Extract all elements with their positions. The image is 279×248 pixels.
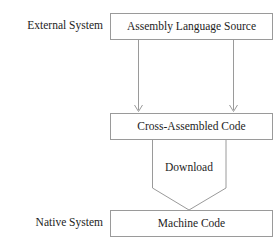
cross-assembled-code-label: Cross-Assembled Code xyxy=(137,120,245,132)
assembly-language-source-label: Assembly Language Source xyxy=(127,20,256,33)
side-label-external-system: External System xyxy=(27,19,103,32)
edge-source-to-crossassembled-right xyxy=(230,40,238,112)
edge-download-funnel: Download xyxy=(153,140,227,210)
node-cross-assembled-code: Cross-Assembled Code xyxy=(111,114,273,140)
node-assembly-language-source: Assembly Language Source xyxy=(111,14,273,40)
diagram-canvas: External System Assembly Language Source… xyxy=(0,0,279,248)
machine-code-label: Machine Code xyxy=(158,217,225,229)
download-label: Download xyxy=(165,161,213,173)
edge-source-to-crossassembled-left xyxy=(135,40,143,112)
flow-diagram: External System Assembly Language Source… xyxy=(0,0,279,248)
node-machine-code: Machine Code xyxy=(111,211,273,237)
side-label-native-system: Native System xyxy=(36,216,103,229)
download-funnel-shape xyxy=(153,140,227,210)
